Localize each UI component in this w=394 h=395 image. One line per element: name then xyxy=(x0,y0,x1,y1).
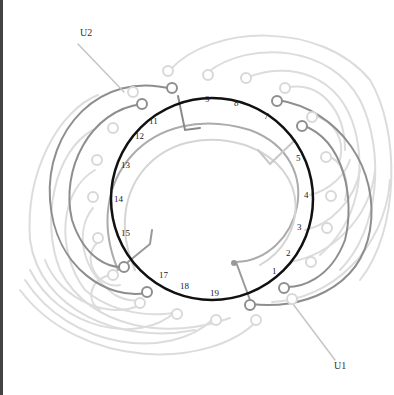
u1-lead xyxy=(290,300,335,360)
slot-3: 3 xyxy=(297,222,302,232)
slot-12: 12 xyxy=(135,131,144,141)
u2-lead xyxy=(78,44,124,92)
slot-15: 15 xyxy=(121,228,131,238)
slot-18: 18 xyxy=(180,281,190,291)
slot-7: 7 xyxy=(264,111,269,121)
slot-4: 4 xyxy=(304,190,309,200)
slot-2: 2 xyxy=(286,248,291,258)
slot-9: 9 xyxy=(205,94,210,104)
slot-19: 19 xyxy=(210,288,220,298)
slot-11: 11 xyxy=(149,116,158,126)
slot-8: 8 xyxy=(234,98,239,108)
stator-ring xyxy=(111,98,313,300)
slot-13: 13 xyxy=(121,160,131,170)
center-tap-dot xyxy=(231,260,237,266)
winding-diagram: 1 2 3 4 5 7 8 9 11 12 13 14 15 17 18 19 … xyxy=(0,0,394,395)
terminal-u2-label: U2 xyxy=(80,27,92,38)
slot-17: 17 xyxy=(159,270,169,280)
connector-left xyxy=(128,230,152,262)
slot-14: 14 xyxy=(114,194,124,204)
terminal-u1-label: U1 xyxy=(334,360,346,371)
slot-1: 1 xyxy=(272,266,277,276)
slot-5: 5 xyxy=(296,153,301,163)
inner-ring-dark xyxy=(108,124,299,270)
